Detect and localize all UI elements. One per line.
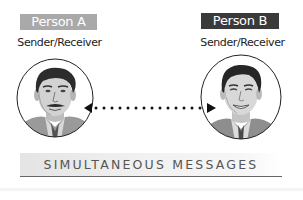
person-b-portrait-icon <box>199 53 283 141</box>
person-a-portrait-icon <box>15 57 95 139</box>
divider <box>0 187 303 192</box>
bidirectional-dotted-arrow <box>80 100 220 116</box>
person-b-label: Person B <box>201 13 279 29</box>
person-b-role: Sender/Receiver <box>195 36 290 49</box>
person-a-label: Person A <box>20 14 97 30</box>
diagram-title-banner: SIMULTANEOUS MESSAGES <box>20 153 282 177</box>
left-arrowhead-icon <box>84 103 92 113</box>
diagram-title: SIMULTANEOUS MESSAGES <box>20 157 282 172</box>
person-a-role: Sender/Receiver <box>12 36 107 49</box>
right-arrowhead-icon <box>207 103 216 113</box>
